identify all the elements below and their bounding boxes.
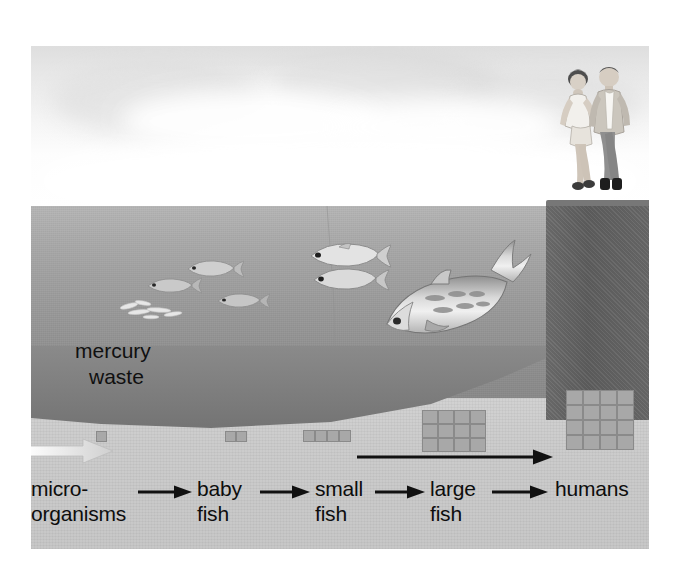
block (566, 405, 583, 420)
concentration-blocks-micro-organisms (96, 431, 107, 442)
block (617, 390, 634, 405)
block (600, 420, 617, 435)
block (600, 405, 617, 420)
food-chain-row: micro- organisms baby fish small fish la… (31, 470, 649, 542)
block (617, 435, 634, 450)
block (422, 410, 438, 424)
label-micro-organisms: micro- organisms (31, 476, 126, 526)
baby-fish (214, 292, 270, 311)
arrow-3-icon (375, 484, 425, 500)
arrow-1-icon (138, 484, 192, 500)
concentration-blocks-small-fish (303, 430, 351, 442)
block (600, 390, 617, 405)
mercury-waste-line-1: mercury (75, 338, 151, 364)
arrow-2-icon (260, 484, 310, 500)
cliff-texture (546, 206, 649, 420)
block (454, 410, 470, 424)
figure-canvas: mercury waste micro- organisms baby fish… (0, 0, 683, 588)
label-baby-fish: baby fish (197, 476, 242, 526)
arrow-4-icon (492, 484, 548, 500)
block (438, 410, 454, 424)
accumulation-arrow (357, 448, 553, 466)
block (583, 420, 600, 435)
block (327, 430, 339, 442)
label-humans: humans (555, 476, 629, 501)
label-small-fish: small fish (315, 476, 363, 526)
concentration-blocks-humans (566, 390, 634, 450)
small-fish (309, 264, 389, 294)
block (339, 430, 351, 442)
block (236, 431, 247, 442)
block (617, 405, 634, 420)
block (583, 435, 600, 450)
block (583, 390, 600, 405)
block (566, 390, 583, 405)
block (454, 424, 470, 438)
block (566, 420, 583, 435)
concentration-blocks-baby-fish (225, 431, 247, 442)
block (566, 435, 583, 450)
woman-walking (560, 70, 597, 191)
mercury-waste-line-2: waste (75, 364, 151, 390)
block (422, 424, 438, 438)
large-fish (373, 228, 553, 348)
block (470, 424, 486, 438)
block (583, 405, 600, 420)
baby-fish (144, 276, 202, 296)
label-large-fish: large fish (430, 476, 476, 526)
people-couple (542, 60, 649, 210)
block (438, 424, 454, 438)
concentration-blocks-large-fish (422, 410, 486, 452)
block (96, 431, 107, 442)
shore-cliff (546, 206, 649, 420)
block (225, 431, 236, 442)
micro-organisms (117, 296, 195, 322)
mercury-waste-label: mercury waste (75, 338, 151, 390)
block (303, 430, 315, 442)
man-walking (589, 67, 630, 190)
block (470, 410, 486, 424)
block (617, 420, 634, 435)
block (315, 430, 327, 442)
block (600, 435, 617, 450)
